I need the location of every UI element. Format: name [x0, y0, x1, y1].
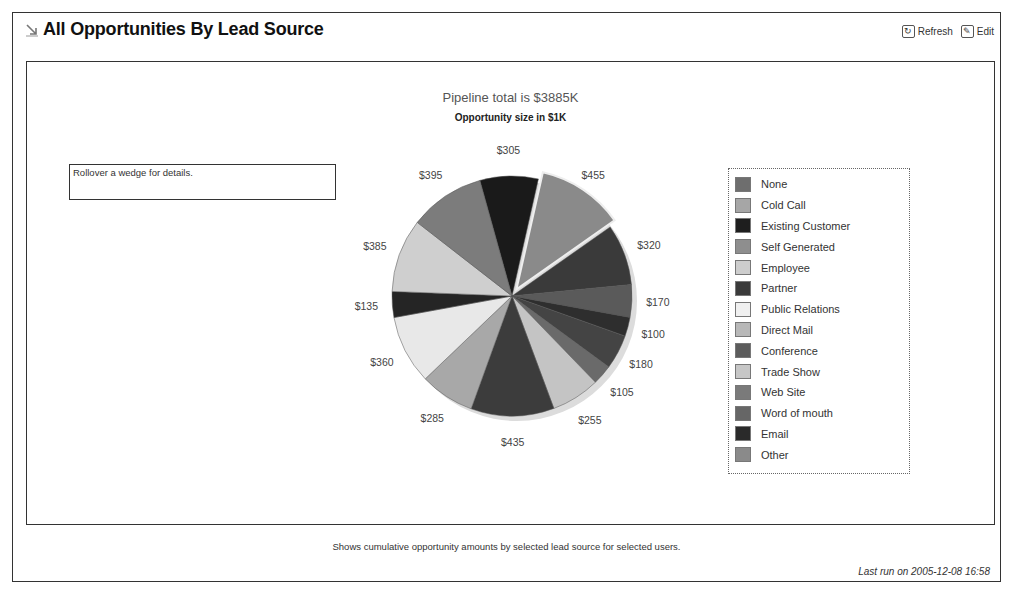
legend-item: Public Relations [735, 299, 909, 320]
chart-frame: Pipeline total is $3885K Opportunity siz… [26, 61, 995, 525]
legend-swatch [735, 364, 751, 379]
legend-label: Trade Show [761, 366, 820, 378]
legend-label: None [761, 178, 787, 190]
pie-label: $180 [629, 358, 653, 370]
legend-label: Conference [761, 345, 818, 357]
legend-item: Self Generated [735, 236, 909, 257]
legend-label: Public Relations [761, 303, 840, 315]
pie-label: $435 [501, 436, 525, 448]
legend-item: Web Site [735, 382, 909, 403]
refresh-button[interactable]: ↻ Refresh [902, 25, 953, 38]
pie-label: $320 [637, 239, 661, 251]
legend-item: Trade Show [735, 361, 909, 382]
legend-item: Cold Call [735, 195, 909, 216]
legend-label: Employee [761, 262, 810, 274]
pie-label: $455 [582, 169, 606, 181]
legend-label: Email [761, 428, 789, 440]
pie-label: $385 [363, 240, 387, 252]
pie-label: $360 [370, 356, 394, 368]
legend-swatch [735, 426, 751, 441]
legend-item: None [735, 174, 909, 195]
legend-label: Web Site [761, 386, 805, 398]
legend-label: Existing Customer [761, 220, 850, 232]
legend-swatch [735, 447, 751, 462]
pie-label: $305 [497, 144, 521, 156]
refresh-label: Refresh [918, 26, 953, 37]
legend-swatch [735, 322, 751, 337]
edit-button[interactable]: ✎ Edit [961, 25, 994, 38]
arrow-down-right-icon[interactable] [25, 23, 39, 37]
legend-swatch [735, 218, 751, 233]
legend-label: Direct Mail [761, 324, 813, 336]
pie-label: $255 [578, 414, 602, 426]
last-run-timestamp: Last run on 2005-12-08 16:58 [858, 566, 990, 577]
pie-label: $105 [610, 386, 634, 398]
legend-swatch [735, 239, 751, 254]
legend-swatch [735, 343, 751, 358]
legend-item: Employee [735, 257, 909, 278]
legend-swatch [735, 198, 751, 213]
pie-label: $135 [355, 300, 379, 312]
pie-label: $170 [646, 296, 670, 308]
legend-item: Existing Customer [735, 216, 909, 237]
pie-label: $100 [641, 328, 665, 340]
panel-header: All Opportunities By Lead Source [25, 19, 324, 40]
legend-label: Word of mouth [761, 407, 833, 419]
legend-item: Conference [735, 340, 909, 361]
edit-label: Edit [977, 26, 994, 37]
legend-item: Other [735, 444, 909, 465]
legend-label: Self Generated [761, 241, 835, 253]
legend-item: Word of mouth [735, 403, 909, 424]
edit-icon: ✎ [961, 25, 974, 38]
legend-label: Cold Call [761, 199, 806, 211]
legend-swatch [735, 177, 751, 192]
legend-label: Partner [761, 282, 797, 294]
legend-item: Direct Mail [735, 320, 909, 341]
refresh-icon: ↻ [902, 25, 915, 38]
chart-description: Shows cumulative opportunity amounts by … [13, 541, 1000, 552]
pie-label: $285 [421, 412, 445, 424]
legend-item: Partner [735, 278, 909, 299]
legend-label: Other [761, 449, 789, 461]
legend-swatch [735, 281, 751, 296]
legend-item: Email [735, 424, 909, 445]
legend-swatch [735, 260, 751, 275]
legend-swatch [735, 406, 751, 421]
legend-swatch [735, 385, 751, 400]
chart-legend: NoneCold CallExisting CustomerSelf Gener… [728, 168, 910, 474]
panel-title: All Opportunities By Lead Source [43, 19, 324, 40]
pie-label: $395 [419, 169, 443, 181]
dashboard-panel: All Opportunities By Lead Source ↻ Refre… [12, 12, 1001, 582]
panel-actions: ↻ Refresh ✎ Edit [902, 25, 994, 38]
legend-swatch [735, 302, 751, 317]
